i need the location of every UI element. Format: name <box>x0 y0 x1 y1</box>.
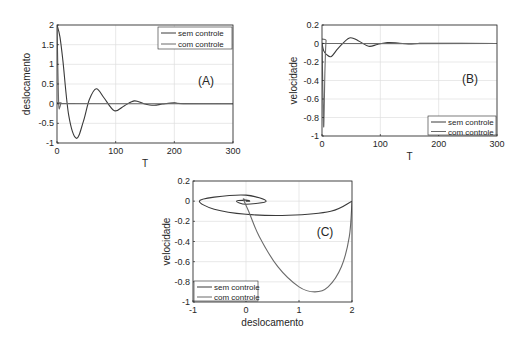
x-tick-label: 300 <box>225 146 240 156</box>
legend-entry: sem controle <box>178 29 224 38</box>
legend-entry: sem controle <box>448 118 494 127</box>
legend-entry: sem controle <box>214 283 260 292</box>
x-axis-label: T <box>406 151 412 162</box>
y-axis-label: velocidade <box>161 217 172 265</box>
x-tick-label: 2 <box>349 305 354 315</box>
panel-label: (A) <box>198 74 214 88</box>
y-tick-label: -1 <box>182 297 190 307</box>
x-tick-label: 200 <box>431 139 446 149</box>
y-tick-label: -0.2 <box>303 57 319 67</box>
y-axis-label: deslocamento <box>21 52 32 115</box>
legend-entry: com controle <box>214 293 260 302</box>
y-tick-label: -1 <box>46 138 54 148</box>
x-tick-label: 0 <box>243 305 248 315</box>
legend: sem controlecom controle <box>428 116 496 137</box>
y-tick-label: 0.5 <box>41 79 54 89</box>
x-tick-label: 1 <box>296 305 301 315</box>
x-tick-label: 100 <box>373 139 388 149</box>
y-tick-label: -0.8 <box>174 277 190 287</box>
figure-canvas: 0100200300-1-0.500.511.52Tdeslocamento(A… <box>0 0 531 342</box>
y-tick-label: 2 <box>49 20 54 30</box>
chart-C: -1012-1-0.8-0.6-0.4-0.200.2deslocamentov… <box>161 176 355 328</box>
chart-A: 0100200300-1-0.500.511.52Tdeslocamento(A… <box>21 20 241 169</box>
y-tick-label: 0 <box>314 39 319 49</box>
y-axis-label: velocidade <box>288 56 299 104</box>
y-tick-label: 1 <box>49 59 54 69</box>
y-tick-label: 0.2 <box>177 176 190 186</box>
y-tick-label: 0 <box>49 99 54 109</box>
y-tick-label: -0.5 <box>38 118 54 128</box>
x-tick-label: -1 <box>189 305 197 315</box>
y-tick-label: -0.4 <box>174 237 190 247</box>
x-tick-label: 0 <box>319 139 324 149</box>
x-tick-label: 100 <box>108 146 123 156</box>
y-tick-label: -0.8 <box>303 113 319 123</box>
x-tick-label: 200 <box>167 146 182 156</box>
panel-label: (C) <box>317 225 334 239</box>
x-tick-label: 300 <box>489 139 504 149</box>
y-tick-label: -0.2 <box>174 216 190 226</box>
chart-B: 0100200300-1-0.8-0.6-0.4-0.200.2Tvelocid… <box>288 20 505 162</box>
y-tick-label: -0.6 <box>303 94 319 104</box>
y-tick-label: 0.2 <box>306 20 319 30</box>
legend-entry: com controle <box>448 128 494 137</box>
y-tick-label: -0.4 <box>303 76 319 86</box>
y-tick-label: 1.5 <box>41 40 54 50</box>
y-tick-label: -0.6 <box>174 257 190 267</box>
x-tick-label: 0 <box>54 146 59 156</box>
legend: sem controlecom controle <box>158 27 232 49</box>
x-axis-label: T <box>142 158 148 169</box>
y-tick-label: -1 <box>311 131 319 141</box>
panel-label: (B) <box>462 72 478 86</box>
legend: sem controlecom controle <box>194 281 260 302</box>
x-axis-label: deslocamento <box>241 317 304 328</box>
legend-entry: com controle <box>178 40 224 49</box>
y-tick-label: 0 <box>185 196 190 206</box>
